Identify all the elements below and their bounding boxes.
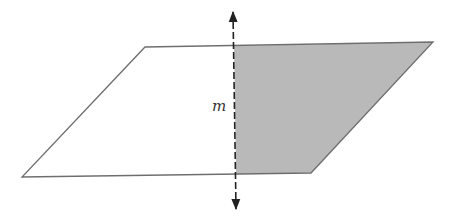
diagram-canvas: m	[0, 0, 455, 222]
shaded-half-region	[234, 42, 433, 174]
line-m-label: m	[212, 97, 226, 115]
